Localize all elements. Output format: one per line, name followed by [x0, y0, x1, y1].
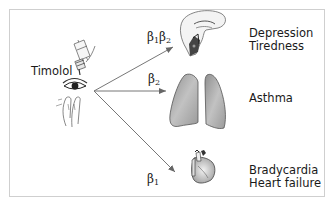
receptor-label-beta1beta2: β1β2	[147, 30, 171, 45]
effect-asthma: Asthma	[249, 92, 293, 105]
effect-heart-failure: Heart failure	[249, 177, 321, 190]
eye-drop-illustration-icon	[56, 40, 95, 127]
effect-tiredness: Tiredness	[249, 40, 304, 53]
arrow-beta1beta2	[94, 47, 173, 91]
receptor-label-beta2: β2	[148, 72, 160, 87]
brain-icon	[180, 11, 225, 56]
drug-label: Timolol	[31, 65, 73, 78]
arrows	[94, 47, 175, 172]
receptor-label-beta1: β1	[147, 172, 159, 187]
lungs-icon	[170, 74, 226, 128]
heart-icon	[192, 150, 215, 183]
arrow-beta1	[94, 91, 175, 172]
